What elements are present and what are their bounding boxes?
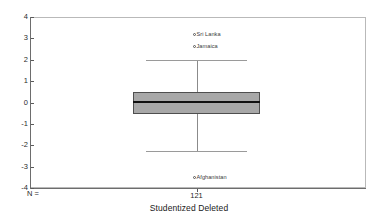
y-axis-tick (31, 81, 34, 82)
circle-icon (193, 33, 196, 36)
outlier-label: Sri Lanka (197, 31, 221, 38)
y-axis-tick-label: 4 (6, 13, 28, 21)
y-axis-tick (31, 60, 34, 61)
y-axis-tick (31, 145, 34, 146)
outlier-label: Jamaica (197, 43, 218, 50)
boxplot-figure: 43210-1-2-3-4 Sri LankaJamaicaAfghanista… (0, 0, 378, 220)
y-axis-tick-label: 3 (6, 34, 28, 42)
sample-size-value: 121 (177, 191, 217, 200)
y-axis-tick (31, 17, 34, 18)
y-axis-tick (31, 124, 34, 125)
outlier-point: Sri Lanka (193, 30, 221, 39)
sample-size-prefix: N = (27, 189, 39, 198)
y-axis-tick-label: -1 (6, 120, 28, 128)
box-iqr (133, 92, 260, 114)
y-axis-tick-label: 1 (6, 77, 28, 85)
outlier-point: Jamaica (193, 42, 218, 51)
outlier-point: Afghanistan (193, 173, 227, 182)
whisker-cap-lower (146, 151, 247, 152)
y-axis-tick-label: 0 (6, 99, 28, 107)
y-axis-tick-label: -3 (6, 163, 28, 171)
y-axis-tick (31, 103, 34, 104)
y-axis-tick-label: -2 (6, 141, 28, 149)
outlier-label: Afghanistan (197, 174, 227, 181)
circle-icon (193, 45, 196, 48)
x-axis-line (30, 188, 366, 189)
circle-icon (193, 176, 196, 179)
whisker-lower (197, 114, 198, 150)
y-axis-tick-label: 2 (6, 56, 28, 64)
y-axis-tick-label: -4 (6, 184, 28, 192)
y-axis-tick (31, 38, 34, 39)
x-axis-title: Studentized Deleted (0, 203, 378, 214)
whisker-cap-upper (146, 60, 247, 61)
median-line (133, 101, 260, 103)
whisker-upper (197, 60, 198, 91)
y-axis-tick (31, 167, 34, 168)
